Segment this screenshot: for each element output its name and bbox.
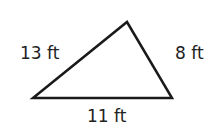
- right-side-label: 8 ft: [175, 45, 204, 62]
- left-side-label: 13 ft: [20, 45, 59, 62]
- triangle-diagram: 13 ft 8 ft 11 ft: [0, 0, 221, 132]
- bottom-side-label: 11 ft: [87, 108, 126, 125]
